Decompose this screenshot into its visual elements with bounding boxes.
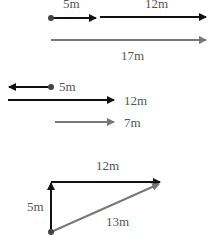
vector-b-label: 12m — [145, 0, 168, 11]
resultant-label: 7m — [124, 115, 141, 130]
diagram-opposite-direction: 5m 12m 7m — [8, 79, 147, 130]
origin-point — [48, 15, 54, 21]
origin-point — [48, 84, 54, 90]
diagram-same-direction: 5m 12m 17m — [48, 0, 206, 63]
diagram-perpendicular: 12m 5m 13m — [27, 158, 160, 235]
vector-a-label: 5m — [27, 199, 44, 214]
vector-addition-diagram: 5m 12m 17m 5m 12m 7m 12m 5m 13m — [0, 0, 213, 242]
resultant-arrow — [51, 184, 159, 232]
vector-a-label: 5m — [59, 79, 76, 94]
vector-a-label: 5m — [63, 0, 80, 11]
origin-point — [48, 229, 54, 235]
vector-b-label: 12m — [96, 158, 119, 173]
resultant-label: 17m — [121, 48, 144, 63]
resultant-label: 13m — [106, 214, 129, 229]
vector-b-label: 12m — [124, 93, 147, 108]
